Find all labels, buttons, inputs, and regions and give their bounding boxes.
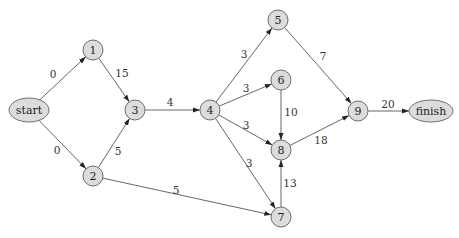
edge-weight-label: 18 [314,134,327,146]
edge-weight-label: 3 [246,157,253,169]
edge-weight-label: 5 [115,145,122,157]
node-3: 3 [125,100,145,120]
node-finish: finish [409,100,453,122]
node-label: 3 [132,104,139,117]
node-6: 6 [271,70,291,90]
edge-weight-label: 0 [54,144,61,156]
edge-1-to-3: 15 [99,58,130,102]
node-4: 4 [200,100,220,120]
edge-weight-label: 7 [320,50,327,62]
edge-7-to-8: 13 [281,160,297,207]
edge-5-to-9: 7 [285,28,352,104]
edge-8-to-9: 18 [290,116,349,146]
edge-arrow [99,58,130,102]
edge-weight-label: 3 [241,48,248,60]
node-label: 7 [278,211,285,224]
edge-4-to-8: 3 [219,115,273,145]
edge-9-to-finish: 20 [368,98,409,111]
node-label: 5 [275,14,282,27]
edge-weight-label: 5 [173,184,180,196]
edge-2-to-3: 5 [98,118,129,167]
edge-weight-label: 10 [284,106,297,118]
node-label: 2 [90,170,97,183]
edge-arrow [103,178,271,215]
edge-weight-label: 20 [381,98,394,110]
edge-start-to-1: 0 [40,57,86,100]
edge-arrow [285,28,352,104]
edge-6-to-8: 10 [281,90,298,140]
node-label: 1 [90,44,97,57]
edge-weight-label: 4 [167,96,174,108]
edge-4-to-7: 3 [216,118,276,208]
node-label: 4 [207,104,214,117]
node-label: 6 [278,74,285,87]
node-9: 9 [348,101,368,121]
node-2: 2 [83,166,103,186]
node-8: 8 [271,140,291,160]
edge-weight-label: 3 [243,82,250,94]
edge-start-to-2: 0 [39,120,86,168]
edge-weight-label: 13 [283,177,296,189]
node-label: finish [416,105,447,118]
node-label: 8 [278,144,285,157]
edge-3-to-4: 4 [145,96,200,110]
network-diagram: 00155453333710131820 start123456879finis… [0,0,459,238]
node-1: 1 [83,40,103,60]
nodes-layer: start123456879finish [9,10,453,227]
edge-4-to-6: 3 [219,82,272,106]
edge-weight-label: 0 [50,68,57,80]
edge-2-to-7: 5 [103,178,271,215]
node-label: 9 [355,105,362,118]
node-label: start [16,104,43,117]
node-start: start [9,98,49,122]
node-7: 7 [271,207,291,227]
node-5: 5 [268,10,288,30]
edge-weight-label: 15 [115,67,128,79]
edge-arrow [98,118,129,167]
edge-weight-label: 3 [243,119,250,131]
edge-arrow [40,57,86,100]
edge-arrow [39,120,86,168]
